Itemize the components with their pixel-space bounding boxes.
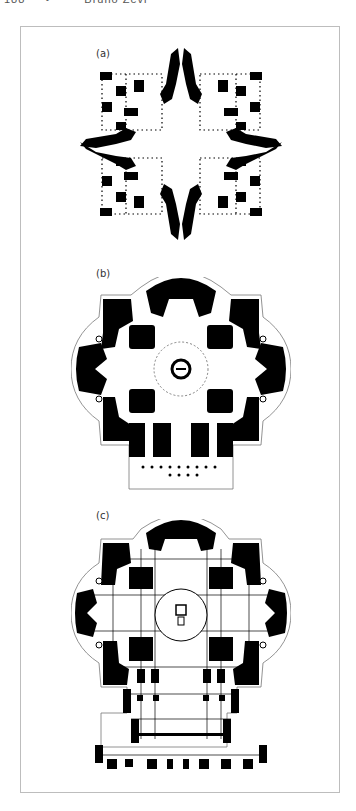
running-title: Bruno Zevi — [84, 0, 147, 5]
floor-plan-b — [71, 277, 291, 492]
floor-plan-a — [76, 44, 286, 244]
floor-plan-c — [71, 519, 291, 789]
figure-frame: (a) — [20, 26, 340, 793]
page-number: 188 — [4, 0, 25, 5]
running-head: 188 • Bruno Zevi — [4, 0, 148, 5]
header-separator: • — [45, 0, 50, 5]
